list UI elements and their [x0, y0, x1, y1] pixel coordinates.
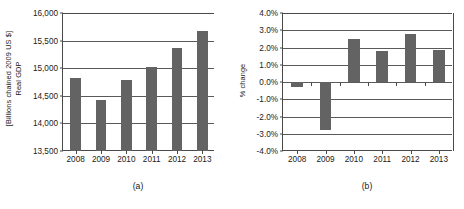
x-tick-mark	[297, 150, 298, 154]
bar-2012	[405, 34, 417, 82]
x-tick-mark	[101, 150, 102, 154]
x-tick-label-2009: 2009	[92, 155, 110, 164]
x-tick-mark	[152, 150, 153, 154]
bar-2009	[96, 100, 107, 151]
y-tick-label: 16,000	[33, 9, 63, 18]
panel-a-bars	[63, 13, 214, 150]
x-tick-label-2013: 2013	[430, 155, 448, 164]
panel-a-caption: (a)	[62, 181, 214, 191]
y-tick-label: 1.0%	[259, 60, 283, 69]
panel-a-plot-area: 13,50014,00014,50015,00015,50016,000 200…	[62, 13, 214, 151]
x-tick-label-2009: 2009	[316, 155, 334, 164]
bar-2013	[197, 31, 208, 151]
x-tick-mark	[326, 150, 327, 154]
x-tick-label-2008: 2008	[288, 155, 306, 164]
panel-b-plot-area: -4.0%-3.0%-2.0%-1.0%0.0%1.0%2.0%3.0%4.0%…	[282, 13, 452, 151]
y-tick-label: 14,000	[33, 119, 63, 128]
x-tick-mark	[76, 150, 77, 154]
panel-a-y-axis-title-line2: [Billions chained 2009 US $]	[4, 29, 13, 129]
zero-axis-tick	[368, 82, 369, 86]
bar-2011	[146, 67, 157, 151]
panel-a-y-axis-title-line1: Real GDP	[14, 29, 23, 129]
x-tick-label-2012: 2012	[168, 155, 186, 164]
bar-2008	[70, 78, 81, 151]
y-tick-label: 13,500	[33, 147, 63, 156]
bar-2010	[121, 80, 132, 151]
y-tick-label: 15,500	[33, 36, 63, 45]
bar-2011	[376, 51, 388, 82]
bar-2012	[172, 48, 183, 151]
bar-2009	[320, 82, 332, 130]
y-tick-label: -2.0%	[257, 112, 283, 121]
panel-b-right-frame	[453, 13, 454, 151]
x-tick-label-2011: 2011	[373, 155, 391, 164]
x-tick-mark	[411, 150, 412, 154]
y-tick-label: 14,500	[33, 91, 63, 100]
y-tick-label: 0.0%	[259, 78, 283, 87]
y-tick-label: -3.0%	[257, 129, 283, 138]
zero-axis-tick	[311, 82, 312, 86]
zero-axis-tick	[425, 82, 426, 86]
x-tick-mark	[439, 150, 440, 154]
x-tick-mark	[354, 150, 355, 154]
panel-b-percent-change: % change -4.0%-3.0%-2.0%-1.0%0.0%1.0%2.0…	[232, 0, 464, 209]
x-tick-mark	[177, 150, 178, 154]
zero-axis-tick	[340, 82, 341, 86]
y-tick-label: -1.0%	[257, 95, 283, 104]
bar-2008	[291, 82, 303, 87]
panel-b-y-axis-title: % change	[238, 31, 247, 131]
x-tick-mark	[126, 150, 127, 154]
figure-two-panel-gdp: Real GDP [Billions chained 2009 US $] 13…	[0, 0, 464, 209]
y-tick-label: -4.0%	[257, 147, 283, 156]
zero-axis-tick	[396, 82, 397, 86]
x-tick-label-2013: 2013	[193, 155, 211, 164]
y-tick-label: 4.0%	[259, 9, 283, 18]
y-tick-label: 15,000	[33, 64, 63, 73]
x-tick-label-2010: 2010	[345, 155, 363, 164]
bar-2013	[433, 50, 445, 82]
x-tick-mark	[202, 150, 203, 154]
x-tick-label-2012: 2012	[401, 155, 419, 164]
panel-a-real-gdp: Real GDP [Billions chained 2009 US $] 13…	[0, 0, 232, 209]
y-tick-label: 3.0%	[259, 26, 283, 35]
x-tick-label-2008: 2008	[67, 155, 85, 164]
y-tick-label: 2.0%	[259, 43, 283, 52]
panel-b-caption: (b)	[282, 181, 452, 191]
x-tick-label-2010: 2010	[117, 155, 135, 164]
x-tick-label-2011: 2011	[143, 155, 161, 164]
bar-2010	[348, 39, 360, 82]
x-tick-mark	[382, 150, 383, 154]
